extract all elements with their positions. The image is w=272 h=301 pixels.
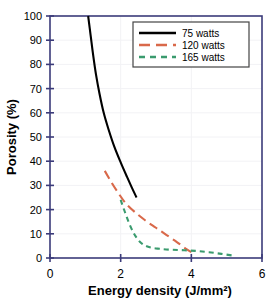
- x-tick-label: 4: [188, 267, 195, 281]
- legend-label-120w: 120 watts: [182, 40, 225, 51]
- y-axis-tick-labels: 0102030405060708090100: [24, 10, 42, 264]
- y-tick-label: 0: [36, 252, 42, 264]
- y-tick-label: 10: [30, 228, 42, 240]
- legend: 75 watts 120 watts 165 watts: [133, 22, 249, 67]
- y-tick-label: 30: [30, 179, 42, 191]
- x-axis-title: Energy density (J/mm²): [88, 283, 232, 298]
- y-tick-label: 70: [30, 83, 42, 95]
- y-axis-title: Porosity (%): [4, 99, 19, 175]
- x-axis-tick-labels: 0246: [47, 267, 266, 281]
- y-tick-label: 40: [30, 155, 42, 167]
- y-tick-label: 60: [30, 107, 42, 119]
- y-tick-label: 90: [30, 34, 42, 46]
- chart-figure: 0102030405060708090100 0246 Porosity (%)…: [0, 0, 272, 301]
- y-tick-label: 20: [30, 204, 42, 216]
- porosity-vs-energy-density-chart: 0102030405060708090100 0246 Porosity (%)…: [0, 0, 272, 301]
- y-tick-label: 80: [30, 58, 42, 70]
- x-tick-label: 2: [117, 267, 124, 281]
- x-tick-label: 0: [47, 267, 54, 281]
- legend-label-165w: 165 watts: [182, 52, 225, 63]
- legend-label-75w: 75 watts: [182, 28, 219, 39]
- y-tick-label: 50: [30, 131, 42, 143]
- x-tick-label: 6: [259, 267, 266, 281]
- y-tick-label: 100: [24, 10, 42, 22]
